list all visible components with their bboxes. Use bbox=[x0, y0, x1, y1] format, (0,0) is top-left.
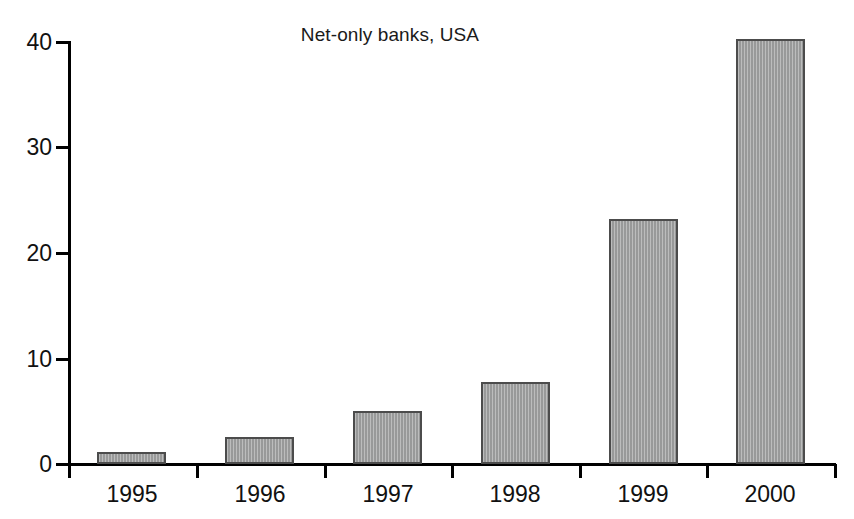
bar-1995 bbox=[97, 452, 166, 464]
x-tick-6 bbox=[834, 464, 837, 478]
x-tick-label-1998: 1998 bbox=[451, 483, 579, 506]
bar-1997 bbox=[353, 411, 422, 464]
bars-layer bbox=[0, 0, 854, 464]
x-tick-0 bbox=[68, 464, 71, 478]
bar-1998 bbox=[481, 382, 550, 464]
bar-1999 bbox=[609, 219, 678, 464]
x-tick-label-1995: 1995 bbox=[68, 483, 196, 506]
bar-1996 bbox=[225, 437, 294, 464]
x-tick-label-1999: 1999 bbox=[579, 483, 707, 506]
x-tick-4 bbox=[579, 464, 582, 478]
x-tick-3 bbox=[451, 464, 454, 478]
x-tick-1 bbox=[196, 464, 199, 478]
x-tick-label-2000: 2000 bbox=[706, 483, 834, 506]
bar-chart: Net-only banks, USA 40 30 20 10 0 1995 1… bbox=[0, 0, 854, 519]
x-tick-2 bbox=[324, 464, 327, 478]
x-tick-label-1996: 1996 bbox=[196, 483, 324, 506]
x-tick-label-1997: 1997 bbox=[324, 483, 452, 506]
bar-2000 bbox=[736, 39, 805, 464]
x-tick-5 bbox=[706, 464, 709, 478]
